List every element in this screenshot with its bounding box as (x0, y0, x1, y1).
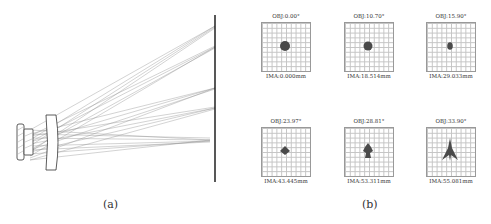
spot-diagram-3: OBJ:15.90° IMA:29.033mm (415, 13, 487, 99)
spot-shape (333, 13, 405, 99)
spot-diagram-6: OBJ:33.90° IMA:55.081mm (415, 118, 487, 204)
spot-diagram-2: OBJ:10.70° IMA:18.514mm (333, 13, 405, 99)
caption-a: (a) (103, 198, 118, 211)
spot-ima-label: IMA:29.033mm (415, 73, 487, 79)
caption-b: (b) (362, 198, 378, 211)
spot-shape (250, 118, 322, 204)
spot-shape (333, 118, 405, 204)
spot-diagram-1: OBJ:0.00° IMA:0.000mm (250, 13, 322, 99)
lens-layout-panel: (a) (0, 0, 240, 224)
spot-diagram-5: OBJ:28.81° IMA:53.311mm (333, 118, 405, 204)
lens-element-3 (46, 115, 58, 170)
lens-ray-diagram (0, 0, 240, 224)
spot-shape (415, 118, 487, 204)
spot-shape (250, 13, 322, 99)
spot-ima-label: IMA:0.000mm (250, 73, 322, 79)
spot-ima-label: IMA:55.081mm (415, 178, 487, 184)
spot-diagram-4: OBJ:23.97° IMA:43.445mm (250, 118, 322, 204)
spot-ima-label: IMA:53.311mm (333, 178, 405, 184)
spot-shape (415, 13, 487, 99)
spot-ima-label: IMA:43.445mm (250, 178, 322, 184)
spot-ima-label: IMA:18.514mm (333, 73, 405, 79)
